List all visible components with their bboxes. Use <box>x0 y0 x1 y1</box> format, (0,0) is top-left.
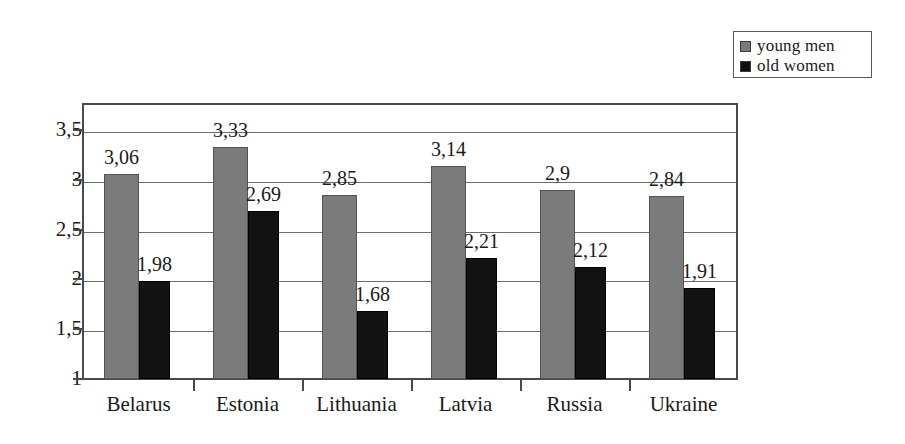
legend-entry-old-women: old women <box>740 56 865 76</box>
x-axis-category-label-latvia: Latvia <box>411 392 520 416</box>
y-axis: 11,522,533,5 <box>0 103 82 380</box>
y-axis-tick-mark <box>73 179 82 181</box>
bar-belarus-old-women <box>139 281 170 379</box>
x-axis-category-label-belarus: Belarus <box>84 392 193 416</box>
x-axis-tick-mark <box>629 380 631 391</box>
x-axis-category-label-russia: Russia <box>520 392 629 416</box>
x-axis-category-label-lithuania: Lithuania <box>302 392 411 416</box>
bar-chart: young men old women 11,522,533,5 3,061,9… <box>0 0 905 444</box>
bar-ukraine-old-women <box>684 288 715 379</box>
legend-label-old-women: old women <box>757 57 835 75</box>
x-axis-tick-mark <box>411 380 413 391</box>
value-label-estonia-young-men: 3,33 <box>204 120 257 140</box>
bar-belarus-young-men <box>104 174 139 379</box>
legend-label-young-men: young men <box>757 37 835 55</box>
legend-swatch-icon-old-women <box>740 61 751 72</box>
bar-ukraine-young-men <box>649 196 684 379</box>
y-axis-tick-mark <box>73 378 82 380</box>
y-axis-tick-mark <box>73 328 82 330</box>
y-axis-tick-mark <box>73 278 82 280</box>
value-label-ukraine-young-men: 2,84 <box>640 169 693 189</box>
x-axis-tick-mark <box>193 380 195 391</box>
bar-russia-old-women <box>575 267 606 379</box>
value-label-russia-old-women: 2,12 <box>573 240 632 260</box>
x-axis-tick-mark <box>302 380 304 391</box>
value-label-lithuania-old-women: 1,68 <box>355 284 414 304</box>
bars-layer <box>84 105 736 379</box>
bar-lithuania-young-men <box>322 195 357 379</box>
bar-estonia-young-men <box>213 147 248 379</box>
bar-latvia-old-women <box>466 258 497 379</box>
bar-russia-young-men <box>540 190 575 379</box>
legend-swatch-icon-young-men <box>740 41 751 52</box>
value-label-ukraine-old-women: 1,91 <box>682 261 741 281</box>
value-label-estonia-old-women: 2,69 <box>246 184 305 204</box>
value-label-latvia-young-men: 3,14 <box>422 139 475 159</box>
value-label-latvia-old-women: 2,21 <box>464 231 523 251</box>
y-axis-tick-mark <box>73 129 82 131</box>
y-axis-tick-mark <box>73 229 82 231</box>
value-label-russia-young-men: 2,9 <box>531 163 584 183</box>
bar-latvia-young-men <box>431 166 466 379</box>
x-axis-category-label-estonia: Estonia <box>193 392 302 416</box>
x-axis-tick-mark <box>520 380 522 391</box>
value-label-belarus-old-women: 1,98 <box>137 254 196 274</box>
chart-legend: young men old women <box>733 31 872 78</box>
legend-entry-young-men: young men <box>740 36 865 56</box>
bar-lithuania-old-women <box>357 311 388 379</box>
bar-estonia-old-women <box>248 211 279 379</box>
x-axis-category-label-ukraine: Ukraine <box>629 392 738 416</box>
value-label-lithuania-young-men: 2,85 <box>313 168 366 188</box>
value-label-belarus-young-men: 3,06 <box>95 147 148 167</box>
